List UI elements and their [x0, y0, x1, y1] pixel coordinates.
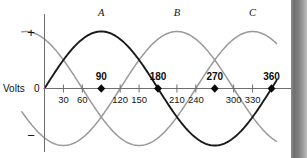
curve-label-b: B: [174, 7, 181, 18]
x-major-label: 90: [96, 71, 108, 82]
curve-label-c: C: [249, 7, 257, 18]
curve-name-labels: ABC: [97, 7, 257, 18]
x-tick-label: 210: [169, 94, 185, 105]
x-tick-label: 150: [131, 94, 147, 105]
x-tick-label: 240: [188, 94, 204, 105]
y-axis-minus-label: −: [27, 128, 35, 143]
y-axis-plus-label: +: [27, 25, 35, 40]
x-tick-label: 330: [245, 94, 261, 105]
x-major-label: 180: [150, 71, 167, 82]
x-major-label: 360: [263, 71, 280, 82]
axis-point-marker: [97, 84, 105, 92]
x-axis-major-labels: 90180270360: [96, 71, 281, 82]
curve-label-a: A: [97, 7, 105, 18]
x-tick-label: 60: [77, 94, 88, 105]
x-major-label: 270: [206, 71, 223, 82]
x-tick-label: 30: [58, 94, 69, 105]
waveform-figure: 3060120150210240300330 90180270360 ABC +…: [0, 0, 307, 158]
y-axis-zero-label: 0: [34, 83, 40, 94]
axis-point-marker: [211, 84, 219, 92]
three-phase-waveform-chart: 3060120150210240300330 90180270360 ABC +…: [0, 0, 307, 158]
x-tick-label: 120: [112, 94, 128, 105]
right-edge-gradient-band: [291, 0, 307, 158]
x-tick-label: 300: [226, 94, 242, 105]
y-axis-title: Volts: [3, 83, 25, 94]
